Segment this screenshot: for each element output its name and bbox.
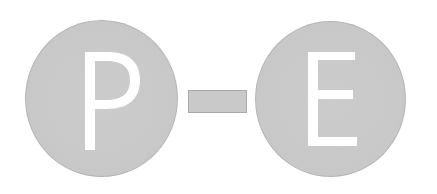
- right-circle: E: [255, 21, 406, 177]
- left-circle: P: [25, 20, 178, 177]
- p-letter-icon: [25, 20, 178, 177]
- e-letter-icon: [255, 21, 406, 177]
- letter-p-glyph: P: [25, 20, 178, 177]
- letter-e-glyph: E: [255, 21, 406, 177]
- separator-text: -: [189, 91, 190, 92]
- separator-dash: -: [188, 90, 247, 113]
- p-e-logo: P - E: [0, 0, 437, 194]
